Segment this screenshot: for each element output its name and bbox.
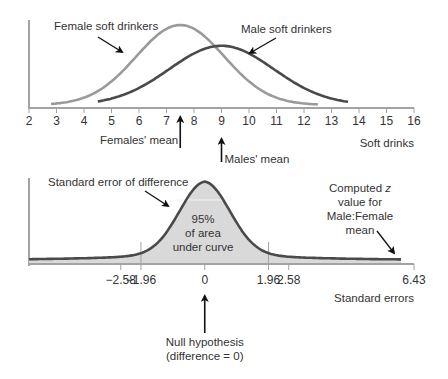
top-panel: 2345678910111213141516 Female soft drink… bbox=[26, 20, 421, 165]
top-x-tick-label: 12 bbox=[297, 114, 311, 128]
top-x-tick-label: 4 bbox=[81, 114, 88, 128]
females-mean-label: Females' mean bbox=[100, 134, 178, 146]
computed-z-label-line1: Computed z bbox=[329, 182, 391, 194]
female-label-arrow bbox=[98, 37, 122, 52]
bottom-x-tick-label: 2.58 bbox=[277, 273, 301, 287]
top-x-tick-label: 14 bbox=[352, 114, 366, 128]
males-mean-label: Males' mean bbox=[225, 153, 290, 165]
bottom-x-tick-labels: −2.58−1.9601.962.586.43 bbox=[106, 273, 426, 287]
computed-z-label-line3: Male:Female bbox=[327, 210, 393, 222]
null-hypothesis-label-line1: Null hypothesis bbox=[166, 336, 244, 348]
se-difference-arrow bbox=[145, 191, 168, 206]
bottom-x-tick-label: 0 bbox=[201, 273, 208, 287]
male-label-arrow bbox=[250, 38, 276, 53]
computed-text: Computed bbox=[329, 182, 385, 194]
top-x-tick-label: 13 bbox=[325, 114, 339, 128]
se-difference-label: Standard error of difference bbox=[48, 176, 188, 188]
null-hypothesis-label-line2: (difference = 0) bbox=[166, 350, 244, 362]
top-x-tick-label: 8 bbox=[191, 114, 198, 128]
sampling-distribution-figure: 2345678910111213141516 Female soft drink… bbox=[0, 0, 448, 379]
top-x-tick-label: 6 bbox=[136, 114, 143, 128]
top-x-tick-label: 15 bbox=[380, 114, 394, 128]
top-x-axis-title: Soft drinks bbox=[360, 137, 415, 149]
bottom-x-axis-title: Standard errors bbox=[334, 292, 414, 304]
bottom-panel: −2.58−1.9601.962.586.43 Standard error o… bbox=[28, 176, 426, 362]
area-percent-label: 95% bbox=[191, 213, 214, 225]
female-curve-label: Female soft drinkers bbox=[54, 20, 158, 32]
bottom-x-tick-label: −1.96 bbox=[126, 273, 157, 287]
computed-z-label-line2: value for bbox=[338, 196, 382, 208]
female-distribution-curve bbox=[51, 25, 318, 104]
top-x-tick-label: 2 bbox=[26, 114, 33, 128]
top-x-tick-label: 5 bbox=[108, 114, 115, 128]
computed-z-label-line4: mean bbox=[346, 224, 375, 236]
top-x-tick-label: 9 bbox=[218, 114, 225, 128]
top-x-tick-label: 3 bbox=[53, 114, 60, 128]
top-x-tick-label: 11 bbox=[270, 114, 283, 128]
top-x-tick-labels: 2345678910111213141516 bbox=[26, 114, 421, 128]
area-label-line3: under curve bbox=[173, 241, 234, 253]
top-x-tick-label: 16 bbox=[407, 114, 421, 128]
computed-z-arrow bbox=[377, 231, 394, 253]
top-x-tick-label: 7 bbox=[163, 114, 170, 128]
bottom-x-tick-label: 6.43 bbox=[402, 273, 426, 287]
male-curve-label: Male soft drinkers bbox=[241, 23, 332, 35]
top-x-tick-label: 10 bbox=[242, 114, 256, 128]
z-symbol: z bbox=[384, 182, 391, 194]
area-label-line2: of area bbox=[185, 227, 221, 239]
